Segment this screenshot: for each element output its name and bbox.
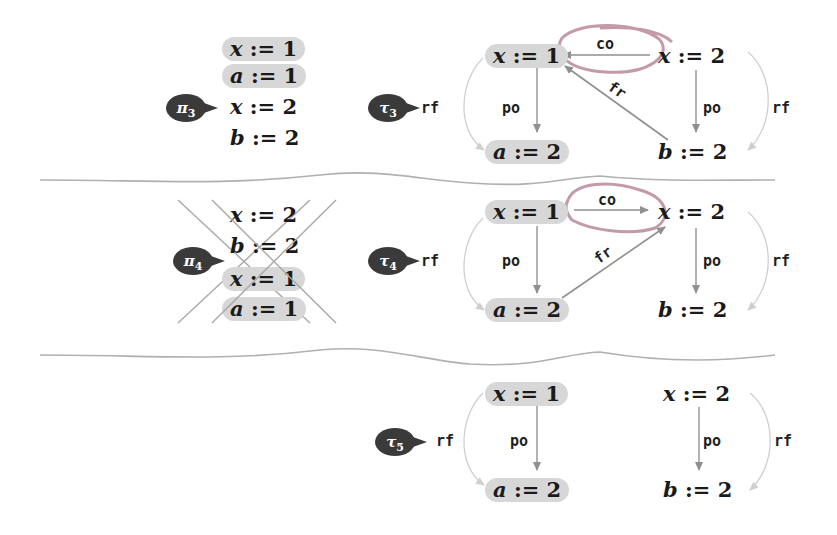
pi4-bubble: π4 (173, 247, 213, 275)
op: := (514, 297, 539, 322)
val: 2 (283, 202, 298, 227)
var: b (658, 139, 673, 164)
tau4-bubble: τ4 (368, 247, 408, 275)
edge-label-co: co (598, 192, 616, 208)
op: := (678, 199, 703, 224)
val: 2 (718, 477, 733, 502)
trace-tau3-a2: a := 2 (485, 140, 569, 164)
separator-1 (40, 173, 775, 185)
program-pi3-stmt-2: a := 1 (222, 64, 306, 88)
edge-label-po-right: po (703, 100, 721, 116)
var: b (658, 297, 673, 322)
val: 2 (713, 297, 728, 322)
op: := (685, 477, 710, 502)
var: x (658, 43, 671, 68)
bubble-symbol: π (177, 99, 188, 117)
var: x (663, 381, 676, 406)
trace-tau5-b2: b := 2 (655, 478, 740, 502)
val: 2 (716, 381, 731, 406)
op: := (680, 297, 705, 322)
val: 1 (283, 36, 298, 61)
val: 2 (283, 94, 298, 119)
var: b (663, 477, 678, 502)
var: a (493, 297, 507, 322)
trace-tau5-a2: a := 2 (485, 478, 569, 502)
var: a (493, 139, 507, 164)
bubble-symbol: τ (379, 99, 389, 117)
program-pi3-stmt-1: x := 1 (222, 37, 305, 61)
val: 2 (285, 125, 300, 150)
program-pi3-stmt-4: b := 2 (222, 126, 307, 150)
bubble-symbol: τ (386, 433, 396, 451)
val: 2 (711, 43, 726, 68)
bubble-sub: 3 (389, 107, 397, 120)
bubble-sub: 5 (396, 441, 404, 454)
val: 2 (547, 297, 562, 322)
val: 1 (283, 266, 298, 291)
var: b (230, 125, 245, 150)
op: := (250, 266, 275, 291)
edge-label-rf-right: rf (772, 100, 790, 116)
tau3-bubble: τ3 (368, 94, 408, 122)
program-pi4-stmt-2: b := 2 (222, 234, 307, 258)
op: := (514, 139, 539, 164)
var: x (658, 199, 671, 224)
trace-tau3-x2: x := 2 (650, 44, 733, 68)
val: 2 (285, 233, 300, 258)
op: := (250, 94, 275, 119)
val: 2 (713, 139, 728, 164)
val: 1 (546, 381, 561, 406)
edge-label-po-left: po (502, 253, 520, 269)
trace-tau5-x1: x := 1 (485, 382, 568, 406)
separator-2 (40, 349, 775, 365)
val: 1 (284, 63, 299, 88)
op: := (252, 125, 277, 150)
op: := (250, 202, 275, 227)
op: := (252, 233, 277, 258)
var: a (230, 63, 244, 88)
bubble-symbol: τ (379, 252, 389, 270)
bubble-symbol: π (184, 252, 195, 270)
trace-tau3-x1: x := 1 (485, 44, 568, 68)
var: a (230, 296, 244, 321)
edge-label-po-right: po (703, 433, 721, 449)
var: x (493, 199, 506, 224)
op: := (513, 199, 538, 224)
edge-label-po-left: po (510, 433, 528, 449)
edge-label-rf-left: rf (421, 100, 439, 116)
trace-tau4-a2: a := 2 (485, 298, 569, 322)
var: x (493, 43, 506, 68)
op: := (513, 43, 538, 68)
var: x (230, 266, 243, 291)
edge-label-rf-right: rf (772, 253, 790, 269)
op: := (680, 139, 705, 164)
bubble-sub: 4 (195, 260, 203, 273)
trace-tau4-x1: x := 1 (485, 200, 568, 224)
bubble-sub: 4 (389, 260, 397, 273)
val: 1 (546, 199, 561, 224)
trace-tau4-b2: b := 2 (650, 298, 735, 322)
var: x (230, 94, 243, 119)
val: 1 (546, 43, 561, 68)
op: := (250, 36, 275, 61)
program-pi3-stmt-3: x := 2 (222, 95, 305, 119)
tau5-bubble: τ5 (375, 428, 415, 456)
op: := (251, 296, 276, 321)
bubble-sub: 3 (188, 107, 196, 120)
op: := (514, 477, 539, 502)
var: x (230, 36, 243, 61)
val: 2 (711, 199, 726, 224)
val: 2 (547, 139, 562, 164)
val: 1 (284, 296, 299, 321)
edge-label-rf-left: rf (436, 433, 454, 449)
op: := (251, 63, 276, 88)
edge-label-po-right: po (703, 253, 721, 269)
trace-tau5-x2: x := 2 (655, 382, 738, 406)
var: b (230, 233, 245, 258)
edge-label-rf-right: rf (774, 433, 792, 449)
edge-label-po-left: po (502, 100, 520, 116)
val: 2 (547, 477, 562, 502)
var: x (493, 381, 506, 406)
op: := (678, 43, 703, 68)
program-pi4-stmt-3: x := 1 (222, 267, 305, 291)
